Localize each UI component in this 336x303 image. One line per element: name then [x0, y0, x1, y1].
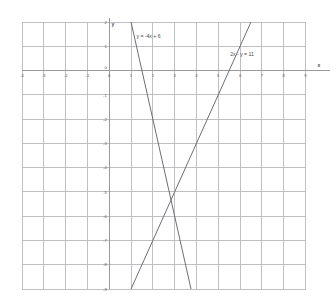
- data-lines: [131, 22, 251, 289]
- function-line: [131, 22, 191, 289]
- x-tick-label: 9: [304, 73, 307, 78]
- y-tick-label: -8: [103, 262, 107, 267]
- equation-label: y = -4x + 6: [136, 33, 160, 39]
- x-tick-label: -3: [42, 73, 46, 78]
- equation-label: 2x - y = 11: [230, 51, 254, 57]
- y-tick-label: -3: [103, 141, 107, 146]
- y-tick-label: -5: [103, 190, 107, 195]
- y-tick-label: -9: [103, 287, 107, 292]
- grid-lines: [22, 22, 306, 289]
- x-axis-name: x: [318, 62, 321, 68]
- x-tick-label: 0: [108, 73, 111, 78]
- x-tick-label: -2: [64, 73, 68, 78]
- y-axis-name: y: [111, 21, 114, 27]
- x-tick-label: 6: [239, 73, 242, 78]
- y-tick-label: -2: [103, 117, 107, 122]
- y-tick-label: -1: [103, 93, 107, 98]
- x-tick-label: -4: [20, 73, 24, 78]
- y-tick-label: -6: [103, 214, 107, 219]
- y-tick-label: -4: [103, 165, 107, 170]
- y-tick-label: -7: [103, 238, 107, 243]
- x-tick-label: 2: [152, 73, 155, 78]
- axis-names: xy: [111, 21, 320, 68]
- x-tick-label: -1: [86, 73, 90, 78]
- function-line: [131, 22, 251, 289]
- x-tick-label: 5: [217, 73, 220, 78]
- x-tick-label: 3: [173, 73, 176, 78]
- x-tick-label: 4: [195, 73, 198, 78]
- graph-canvas: -4-3-2-10123456789210-1-2-3-4-5-6-7-8-9x…: [0, 0, 336, 303]
- x-tick-label: 7: [261, 73, 264, 78]
- tick-labels: -4-3-2-10123456789210-1-2-3-4-5-6-7-8-9: [20, 20, 307, 292]
- x-tick-label: 8: [283, 73, 286, 78]
- y-tick-label: 0: [104, 65, 107, 70]
- coordinate-graph: -4-3-2-10123456789210-1-2-3-4-5-6-7-8-9x…: [0, 0, 336, 303]
- x-tick-label: 1: [130, 73, 133, 78]
- equation-labels: y = -4x + 62x - y = 11: [136, 33, 253, 58]
